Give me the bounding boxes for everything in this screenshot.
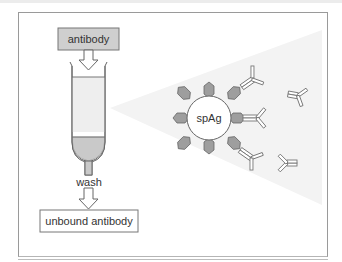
affinity-column-diagram: antibody wash unbound antibody bbox=[0, 0, 342, 262]
antibody-input-label: antibody bbox=[68, 33, 110, 45]
antibody-input-box: antibody bbox=[58, 28, 119, 50]
chromatography-column bbox=[70, 62, 107, 175]
spag-label: spAg bbox=[196, 112, 221, 124]
arrow-down-icon bbox=[79, 188, 98, 209]
wash-label: wash bbox=[75, 176, 102, 188]
unbound-antibody-box: unbound antibody bbox=[40, 210, 138, 232]
spag-bead: spAg bbox=[173, 82, 245, 154]
unbound-antibody-label: unbound antibody bbox=[45, 215, 133, 227]
arrow-down-icon bbox=[79, 50, 98, 70]
